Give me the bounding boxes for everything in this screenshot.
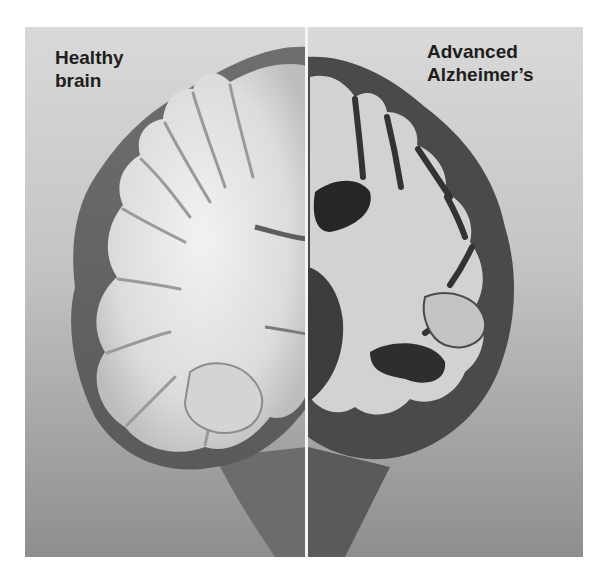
alzheimers-brain-label: Advanced Alzheimer’s: [427, 40, 534, 86]
brain-comparison-figure: Healthy brain Advanced Alzheimer’s: [25, 27, 583, 557]
healthy-brain-label: Healthy brain: [55, 46, 124, 92]
center-divider: [305, 27, 308, 557]
alzheimers-hemisphere: [308, 57, 514, 557]
healthy-hemisphere: [71, 47, 307, 557]
alzheimers-label-line1: Advanced: [427, 40, 534, 63]
healthy-label-line2: brain: [55, 69, 124, 92]
brain-cross-section-illustration: [25, 27, 583, 557]
alzheimers-label-line2: Alzheimer’s: [427, 63, 534, 86]
healthy-label-line1: Healthy: [55, 46, 124, 69]
